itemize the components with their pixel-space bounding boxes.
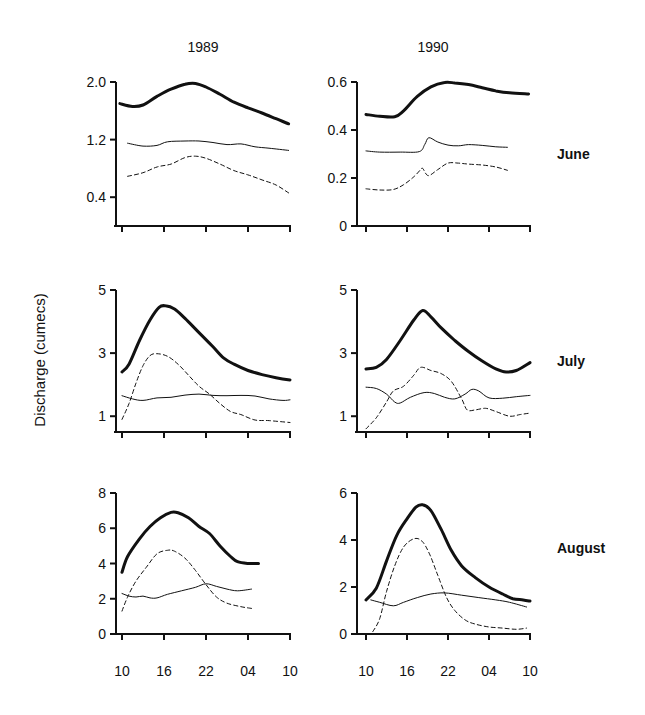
series-line-thin-solid — [122, 584, 252, 598]
series-line-dashed — [366, 163, 507, 191]
y-tick-label: 0.4 — [87, 189, 107, 205]
y-tick-label: 0.6 — [328, 74, 348, 90]
series-line-dashed — [128, 156, 289, 193]
y-tick-label: 0.4 — [328, 122, 348, 138]
row-label-july: July — [557, 353, 585, 369]
x-tick-label: 22 — [440, 663, 456, 679]
series-line-dashed — [122, 354, 290, 423]
x-tick-label: 10 — [522, 663, 538, 679]
y-tick-label: 6 — [339, 485, 347, 501]
y-tick-label: 1.2 — [87, 132, 107, 148]
x-tick-label: 04 — [481, 663, 497, 679]
panel-june-1989: 0.41.22.0 — [87, 74, 291, 232]
column-title-1990: 1990 — [417, 39, 448, 55]
y-tick-label: 0.2 — [328, 170, 348, 186]
y-tick-label: 4 — [339, 532, 347, 548]
series-line-thick-solid — [366, 82, 529, 117]
y-tick-label: 5 — [339, 282, 347, 298]
x-tick-label: 04 — [240, 663, 256, 679]
x-tick-label: 22 — [198, 663, 214, 679]
y-axis-label: Discharge (cumecs) — [31, 293, 48, 426]
series-line-thin-solid — [122, 394, 290, 400]
series-line-thick-solid — [366, 310, 530, 372]
x-tick-label: 16 — [399, 663, 415, 679]
x-tick-label: 10 — [282, 663, 298, 679]
series-line-thin-solid — [366, 138, 507, 153]
y-tick-label: 3 — [98, 345, 106, 361]
y-tick-label: 0 — [339, 626, 347, 642]
y-tick-label: 2.0 — [87, 74, 107, 90]
column-title-1989: 1989 — [187, 39, 218, 55]
panel-july-1989: 135 — [98, 282, 291, 438]
y-tick-label: 0 — [339, 218, 347, 234]
column-titles: 1989 1990 — [187, 39, 448, 55]
series-line-thick-solid — [120, 83, 289, 124]
x-tick-label: 16 — [156, 663, 172, 679]
y-tick-label: 1 — [98, 408, 106, 424]
y-tick-label: 3 — [339, 345, 347, 361]
panel-august-1989: 024681016220410 — [98, 485, 298, 679]
row-label-june: June — [557, 146, 590, 162]
x-tick-label: 10 — [114, 663, 130, 679]
panel-july-1990: 135 — [339, 282, 531, 438]
y-tick-label: 0 — [98, 626, 106, 642]
series-line-thin-solid — [366, 387, 530, 403]
y-tick-label: 1 — [339, 408, 347, 424]
chart-panels: 0.41.22.000.20.40.6135135024681016220410… — [87, 74, 538, 679]
y-tick-label: 2 — [98, 591, 106, 607]
series-line-dashed — [373, 538, 527, 631]
row-labels: June July August — [557, 146, 606, 556]
panel-august-1990: 02461016220410 — [339, 485, 538, 679]
discharge-chart: 1989 1990 June July August Discharge (cu… — [0, 0, 645, 715]
y-tick-label: 2 — [339, 579, 347, 595]
row-label-august: August — [557, 540, 606, 556]
panel-june-1990: 00.20.40.6 — [328, 74, 531, 234]
x-tick-label: 10 — [358, 663, 374, 679]
y-tick-label: 4 — [98, 556, 106, 572]
y-tick-label: 8 — [98, 485, 106, 501]
series-line-thin-solid — [128, 141, 289, 151]
y-tick-label: 5 — [98, 282, 106, 298]
series-line-thick-solid — [122, 306, 290, 380]
series-line-thick-solid — [366, 505, 530, 602]
y-tick-label: 6 — [98, 520, 106, 536]
